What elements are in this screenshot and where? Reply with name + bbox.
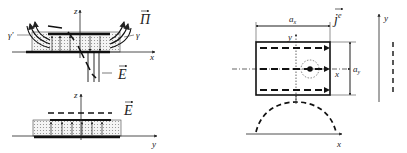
patch-top-view: ax ay y x je xyxy=(232,9,393,149)
dim-ay-label: ay xyxy=(353,64,361,75)
current-profile-arc xyxy=(256,102,336,132)
current-density-label: je xyxy=(332,11,342,27)
axis-label-z-yz: z xyxy=(73,90,78,100)
substrate-yz xyxy=(33,120,121,136)
axis-label-y-top: y xyxy=(287,32,292,42)
diagram-canvas: z x Π γ' γ E z y E ax xyxy=(0,0,407,153)
xz-cross-section: z x Π γ' γ E xyxy=(8,6,155,82)
profile-axis-x-label: x xyxy=(336,139,341,149)
axis-label-x-top: x xyxy=(334,69,339,79)
dim-ax-label: ax xyxy=(289,14,297,25)
gamma-prime-label: γ' xyxy=(8,30,15,40)
axis-label-z: z xyxy=(73,6,78,16)
field-E-label-top: E xyxy=(117,67,127,82)
axis-label-y: y xyxy=(151,139,156,149)
poynting-label: Π xyxy=(139,12,151,27)
side-axis-y-label: y xyxy=(383,13,388,23)
axis-label-x: x xyxy=(149,52,154,62)
field-E-label-bottom: E xyxy=(123,103,133,118)
gamma-label: γ xyxy=(136,30,140,40)
yz-cross-section: z y E xyxy=(12,90,157,149)
feed-point xyxy=(307,66,313,72)
